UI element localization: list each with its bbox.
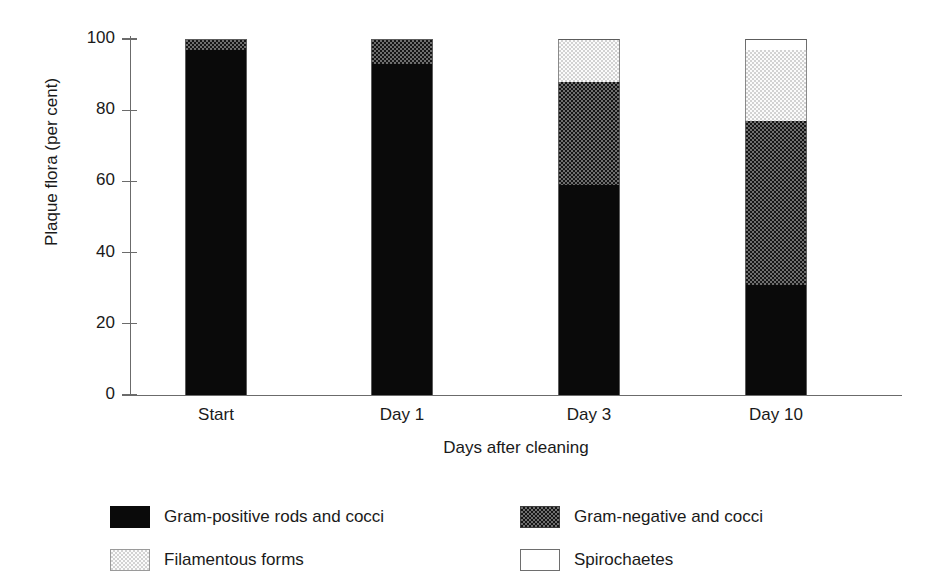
dark-checker-swatch [520, 506, 560, 528]
bar-day-3[interactable] [558, 39, 620, 395]
bar-segment-black [185, 50, 247, 395]
y-axis-tick [122, 323, 137, 324]
y-axis-tick [122, 110, 137, 111]
legend-item[interactable]: Gram-positive rods and cocci [110, 506, 520, 528]
bar-day-10[interactable] [745, 39, 807, 395]
light-checker-swatch [110, 549, 150, 571]
x-axis-line [130, 395, 902, 396]
bar-segment-black [558, 185, 620, 395]
bar-segment-gramneg [558, 82, 620, 185]
bar-segment-black [371, 64, 433, 395]
y-axis-tick-label: 20 [55, 314, 115, 331]
y-axis-tick-label: 40 [55, 243, 115, 260]
x-axis-label-day-3: Day 3 [519, 405, 659, 425]
legend-item-label: Filamentous forms [164, 550, 304, 570]
bar-segment-filament [745, 50, 807, 121]
y-axis-tick [122, 394, 137, 395]
legend-item[interactable]: Spirochaetes [520, 549, 900, 571]
bar-start[interactable] [185, 39, 247, 395]
y-axis-tick [122, 181, 137, 182]
y-axis-tick-label: 100 [55, 29, 115, 46]
stacked-bar-chart: 020406080100 Plaque flora (per cent) Sta… [0, 0, 934, 585]
legend-item[interactable]: Filamentous forms [110, 549, 520, 571]
y-axis-tick-label: 60 [55, 171, 115, 188]
x-axis-label-day-10: Day 10 [706, 405, 846, 425]
chart-legend: Gram-positive rods and cocciGram-negativ… [110, 495, 900, 581]
y-axis-title: Plaque flora (per cent) [42, 12, 62, 312]
y-axis-tick [122, 252, 137, 253]
y-axis-line [130, 36, 131, 396]
solid-black-swatch [110, 506, 150, 528]
legend-item-label: Spirochaetes [574, 550, 673, 570]
x-axis-label-day-1: Day 1 [332, 405, 472, 425]
bar-segment-filament [558, 39, 620, 82]
bar-segment-gramneg [371, 39, 433, 64]
bar-day-1[interactable] [371, 39, 433, 395]
legend-item-label: Gram-negative and cocci [574, 507, 763, 527]
legend-item[interactable]: Gram-negative and cocci [520, 506, 900, 528]
y-axis-tick-label: 0 [55, 385, 115, 402]
x-axis-label-start: Start [146, 405, 286, 425]
legend-item-label: Gram-positive rods and cocci [164, 507, 384, 527]
x-axis-title: Days after cleaning [130, 438, 902, 458]
y-axis-tick [122, 38, 137, 39]
bar-segment-gramneg [745, 121, 807, 285]
white-swatch [520, 549, 560, 571]
bar-segment-gramneg [185, 39, 247, 50]
y-axis-tick-label: 80 [55, 100, 115, 117]
bar-segment-spiro [745, 39, 807, 50]
bar-segment-black [745, 285, 807, 395]
